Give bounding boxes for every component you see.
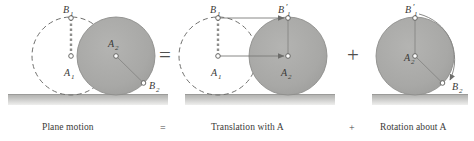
svg-text:2: 2: [411, 58, 415, 66]
point-B2-panel1: [141, 81, 146, 86]
point-A2-panel2: [286, 54, 291, 59]
panel-translation: [179, 16, 335, 105]
panel-plane-motion: [8, 16, 168, 105]
ground-line-panel3: [372, 94, 468, 105]
point-A2-panel1: [114, 54, 119, 59]
svg-text:1: 1: [70, 10, 74, 18]
svg-text:A: A: [210, 67, 218, 78]
figure-canvas: = + B 1 A 1 A 2 B 2 B 1 A 1 B ′ 1 A 2 B …: [0, 0, 474, 141]
svg-text:B: B: [149, 80, 155, 91]
plus-operator-big: +: [347, 43, 359, 67]
caption-plane-motion: Plane motion: [42, 122, 94, 132]
svg-text:1: 1: [414, 10, 418, 18]
svg-text:A: A: [403, 52, 411, 63]
ground-line-panel2: [185, 94, 335, 105]
caption-translation: Translation with A: [211, 122, 284, 132]
svg-text:1: 1: [217, 10, 221, 18]
svg-text:2: 2: [459, 87, 463, 95]
svg-text:1: 1: [218, 73, 222, 81]
caption-rotation: Rotation about A: [380, 122, 447, 132]
svg-text:2: 2: [288, 73, 292, 81]
svg-text:1: 1: [287, 10, 291, 18]
point-A1-panel2: [216, 54, 221, 59]
point-A1-panel1: [69, 54, 74, 59]
caption-plus-operator: +: [349, 122, 355, 133]
svg-text:B: B: [405, 4, 411, 15]
svg-text:B: B: [63, 4, 69, 15]
equals-operator-big: =: [159, 43, 171, 67]
point-B2-panel3: [440, 81, 445, 86]
svg-text:1: 1: [71, 73, 75, 81]
svg-text:A: A: [63, 67, 71, 78]
svg-text:B: B: [210, 4, 216, 15]
svg-text:A: A: [280, 67, 288, 78]
svg-text:B: B: [278, 4, 284, 15]
physics-diagram-svg: = + B 1 A 1 A 2 B 2 B 1 A 1 B ′ 1 A 2 B …: [0, 0, 474, 141]
ground-line-panel1: [8, 94, 168, 105]
svg-text:2: 2: [156, 86, 160, 94]
svg-text:2: 2: [115, 44, 119, 52]
caption-equals-operator: =: [160, 122, 166, 133]
svg-text:A: A: [107, 38, 115, 49]
svg-text:B: B: [452, 81, 458, 92]
